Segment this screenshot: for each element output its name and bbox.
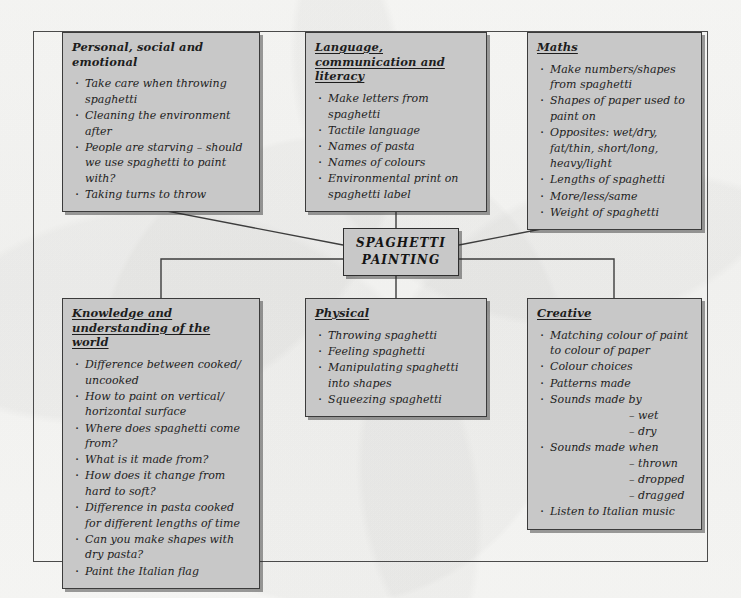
list-item: Taking turns to throw xyxy=(72,187,250,203)
list-sub-item: – wet xyxy=(629,408,692,424)
node-heading: Creative xyxy=(537,306,692,321)
list-item: Opposites: wet/dry, fat/thin, short/long… xyxy=(537,125,692,172)
node-item-list: Throwing spaghetti Feeling spaghetti Man… xyxy=(315,328,477,408)
node-personal-social-emotional[interactable]: Personal, social and emotional Take care… xyxy=(62,32,260,212)
node-item-list: Difference between cooked/ uncooked How … xyxy=(72,357,250,579)
list-item: Matching colour of paint to colour of pa… xyxy=(537,328,692,359)
list-item: Make letters from spaghetti xyxy=(315,91,477,122)
list-item: More/less/same xyxy=(537,189,692,205)
node-heading: Maths xyxy=(537,40,692,55)
list-item: Difference in pasta cooked for different… xyxy=(72,500,250,531)
node-item-list: Make numbers/shapes from spaghetti Shape… xyxy=(537,62,692,221)
list-item: Names of colours xyxy=(315,155,477,171)
node-language-communication-literacy[interactable]: Language, communication and literacy Mak… xyxy=(305,32,487,212)
list-item: Take care when throwing spaghetti xyxy=(72,76,250,107)
list-item: Lengths of spaghetti xyxy=(537,172,692,188)
list-item: People are starving – should we use spag… xyxy=(72,140,250,187)
node-heading: Personal, social and emotional xyxy=(72,40,250,69)
node-heading: Physical xyxy=(315,306,477,321)
node-item-list: Matching colour of paint to colour of pa… xyxy=(537,328,692,520)
list-item: Difference between cooked/ uncooked xyxy=(72,357,250,388)
list-item: Sounds made by xyxy=(537,392,692,408)
node-item-list: Make letters from spaghetti Tactile lang… xyxy=(315,91,477,202)
node-knowledge-understanding-world[interactable]: Knowledge and understanding of the world… xyxy=(62,298,260,589)
node-maths[interactable]: Maths Make numbers/shapes from spaghetti… xyxy=(527,32,702,230)
list-item: Make numbers/shapes from spaghetti xyxy=(537,62,692,93)
list-item: Where does spaghetti come from? xyxy=(72,421,250,452)
list-item: Squeezing spaghetti xyxy=(315,392,477,408)
list-item: Paint the Italian flag xyxy=(72,564,250,580)
node-creative[interactable]: Creative Matching colour of paint to col… xyxy=(527,298,702,530)
list-item: Sounds made when xyxy=(537,440,692,456)
list-item: Environmental print on spaghetti label xyxy=(315,171,477,202)
list-item: Tactile language xyxy=(315,123,477,139)
node-heading: Language, communication and literacy xyxy=(315,40,477,84)
list-item: Patterns made xyxy=(537,376,692,392)
list-sub-item: – dragged xyxy=(629,488,692,504)
list-item: Cleaning the environment after xyxy=(72,108,250,139)
list-item: Can you make shapes with dry pasta? xyxy=(72,532,250,563)
list-item: How does it change from hard to soft? xyxy=(72,468,250,499)
list-sub-item: – thrown xyxy=(629,456,692,472)
list-item: What is it made from? xyxy=(72,452,250,468)
node-heading: Knowledge and understanding of the world xyxy=(72,306,250,350)
node-physical[interactable]: Physical Throwing spaghetti Feeling spag… xyxy=(305,298,487,417)
list-item: Listen to Italian music xyxy=(537,504,692,520)
list-item: Feeling spaghetti xyxy=(315,344,477,360)
center-node-line-1: SPAGHETTI xyxy=(356,235,446,252)
center-node-spaghetti-painting[interactable]: SPAGHETTI PAINTING xyxy=(343,228,459,276)
node-item-list: Take care when throwing spaghetti Cleani… xyxy=(72,76,250,202)
list-sub-item: – dry xyxy=(629,424,692,440)
list-item: Weight of spaghetti xyxy=(537,205,692,221)
list-item: Manipulating spaghetti into shapes xyxy=(315,360,477,391)
list-item: How to paint on vertical/ horizontal sur… xyxy=(72,389,250,420)
list-sub-item: – dropped xyxy=(629,472,692,488)
center-node-line-2: PAINTING xyxy=(362,252,441,269)
list-item: Shapes of paper used to paint on xyxy=(537,93,692,124)
list-item: Throwing spaghetti xyxy=(315,328,477,344)
list-item: Colour choices xyxy=(537,359,692,375)
list-item: Names of pasta xyxy=(315,139,477,155)
